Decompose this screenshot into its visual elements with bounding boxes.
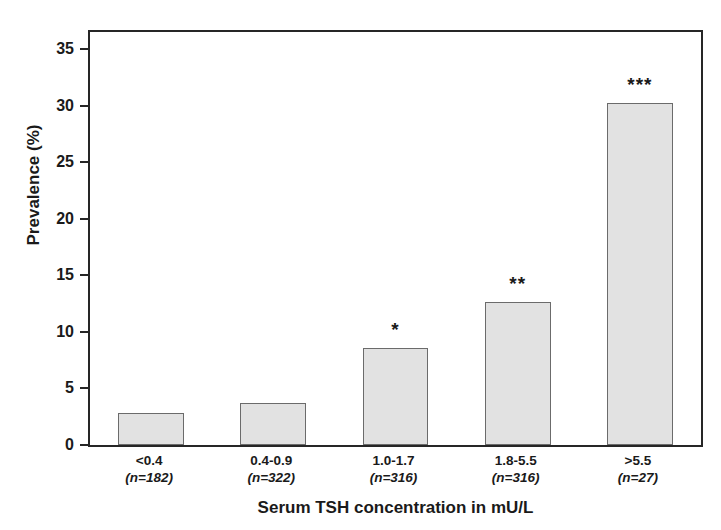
bar (240, 403, 306, 445)
plot-area: 05101520253035 ****** (88, 30, 703, 447)
y-axis-tick-label: 25 (56, 153, 74, 171)
bar (118, 413, 184, 445)
x-axis-group-size: (n=322) (210, 470, 332, 487)
x-axis-category: 1.0-1.7 (332, 453, 454, 470)
x-axis-tick-label: >5.5(n=27) (577, 453, 699, 487)
y-axis-tick-mark: 35 (80, 48, 90, 50)
y-axis-tick-mark: 20 (80, 218, 90, 220)
y-axis-tick-mark: 30 (80, 105, 90, 107)
y-axis-title: Prevalence (%) (24, 75, 44, 295)
x-axis-group-size: (n=316) (455, 470, 577, 487)
bar (485, 302, 551, 445)
y-axis-tick-label: 20 (56, 210, 74, 228)
x-axis-group-size: (n=316) (332, 470, 454, 487)
x-axis-tick-label: 1.0-1.7(n=316) (332, 453, 454, 487)
x-axis-group-size: (n=27) (577, 470, 699, 487)
y-axis-tick-label: 35 (56, 40, 74, 58)
x-axis-group-size: (n=182) (88, 470, 210, 487)
x-axis-tick-label: <0.4(n=182) (88, 453, 210, 487)
x-axis-category: 0.4-0.9 (210, 453, 332, 470)
y-axis-tick-label: 30 (56, 97, 74, 115)
y-axis-tick-mark: 0 (80, 444, 90, 446)
x-axis-category: <0.4 (88, 453, 210, 470)
y-axis-tick-label: 15 (56, 266, 74, 284)
x-axis-category: 1.8-5.5 (455, 453, 577, 470)
y-axis-tick-label: 10 (56, 323, 74, 341)
y-axis-tick-mark: 15 (80, 274, 90, 276)
x-axis-title: Serum TSH concentration in mU/L (88, 498, 703, 518)
x-axis-tick-label: 1.8-5.5(n=316) (455, 453, 577, 487)
bar (607, 103, 673, 445)
y-axis-tick-mark: 25 (80, 161, 90, 163)
x-axis-category: >5.5 (577, 453, 699, 470)
y-axis-tick-label: 5 (65, 379, 74, 397)
y-axis-tick-label: 0 (65, 436, 74, 454)
bar (363, 348, 429, 445)
significance-marker: ** (485, 274, 551, 293)
significance-marker: *** (607, 75, 673, 94)
significance-marker: * (363, 320, 429, 339)
x-axis-tick-label: 0.4-0.9(n=322) (210, 453, 332, 487)
y-axis-tick-mark: 5 (80, 387, 90, 389)
bar-chart-figure: Prevalence (%) 05101520253035 ****** <0.… (0, 0, 721, 530)
y-axis-tick-mark: 10 (80, 331, 90, 333)
